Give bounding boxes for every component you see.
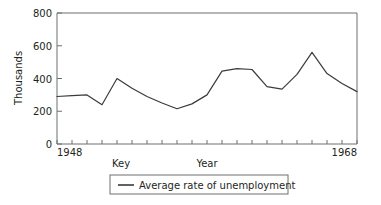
legend: Average rate of unemployment — [110, 175, 296, 194]
y-axis-title: Thousands — [13, 51, 24, 106]
legend-entry-label: Average rate of unemployment — [139, 180, 296, 191]
y-tick-label-0: 0 — [46, 139, 52, 150]
y-tick-label-200: 200 — [33, 106, 52, 117]
x-tick-label-end: 1968 — [332, 147, 357, 158]
x-axis-title: Year — [195, 158, 218, 169]
chart-canvas: 800 600 400 200 0 Thousands 1948 1968 Ye… — [0, 0, 381, 205]
y-tick-label-800: 800 — [33, 8, 52, 19]
key-caption: Key — [112, 158, 130, 169]
unemployment-line-chart: 800 600 400 200 0 Thousands 1948 1968 Ye… — [0, 0, 381, 205]
y-tick-label-600: 600 — [33, 41, 52, 52]
x-tick-label-start: 1948 — [57, 147, 82, 158]
x-axis-ticks — [57, 140, 357, 144]
y-tick-label-400: 400 — [33, 74, 52, 85]
series-line-average-rate-of-unemployment — [57, 52, 357, 108]
y-axis-ticks — [57, 13, 62, 144]
plot-frame — [57, 13, 357, 144]
